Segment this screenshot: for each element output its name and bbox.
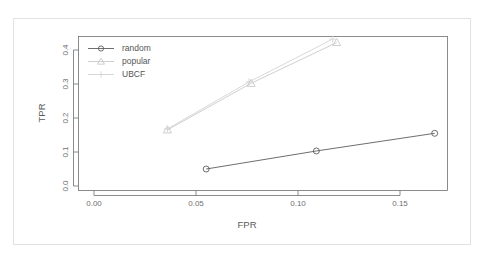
y-tick-label: 0.3 <box>61 78 70 90</box>
roc-plot: 0.4 0.3 0.2 0.1 0.0 TPR 0.00 0.05 0.10 <box>0 0 486 264</box>
x-axis-title: FPR <box>238 219 257 230</box>
y-axis-title: TPR <box>36 103 47 122</box>
chart-svg: 0.4 0.3 0.2 0.1 0.0 TPR 0.00 0.05 0.10 <box>0 0 486 264</box>
legend-entry-random: random <box>88 43 151 53</box>
series-popular <box>163 38 340 132</box>
legend-entry-popular: popular <box>88 56 151 66</box>
y-axis-ticks <box>74 50 79 186</box>
legend-label-popular: popular <box>122 56 151 66</box>
y-tick-label: 0.4 <box>61 44 70 56</box>
legend-marker-ubcf <box>88 71 114 77</box>
legend-label-random: random <box>122 43 151 53</box>
y-tick-label: 0.1 <box>61 146 70 158</box>
figure-canvas: 0.4 0.3 0.2 0.1 0.0 TPR 0.00 0.05 0.10 <box>0 0 486 264</box>
x-axis-tick-labels: 0.00 0.05 0.10 0.15 <box>86 199 408 208</box>
x-tick-label: 0.15 <box>392 199 408 208</box>
series-random <box>203 130 437 172</box>
x-tick-label: 0.00 <box>86 199 102 208</box>
chart-legend: random popular UBCF <box>88 43 151 79</box>
x-tick-label: 0.05 <box>188 199 204 208</box>
data-point <box>164 125 171 132</box>
x-tick-label: 0.10 <box>290 199 306 208</box>
legend-label-ubcf: UBCF <box>122 69 145 79</box>
x-axis-ticks <box>94 191 400 196</box>
y-tick-label: 0.0 <box>61 180 70 192</box>
legend-marker-popular <box>88 58 114 64</box>
legend-entry-ubcf: UBCF <box>88 69 145 79</box>
y-tick-label: 0.2 <box>61 112 70 124</box>
data-series-group <box>163 36 437 172</box>
y-axis-tick-labels: 0.4 0.3 0.2 0.1 0.0 <box>61 44 70 192</box>
legend-marker-random <box>88 46 114 51</box>
